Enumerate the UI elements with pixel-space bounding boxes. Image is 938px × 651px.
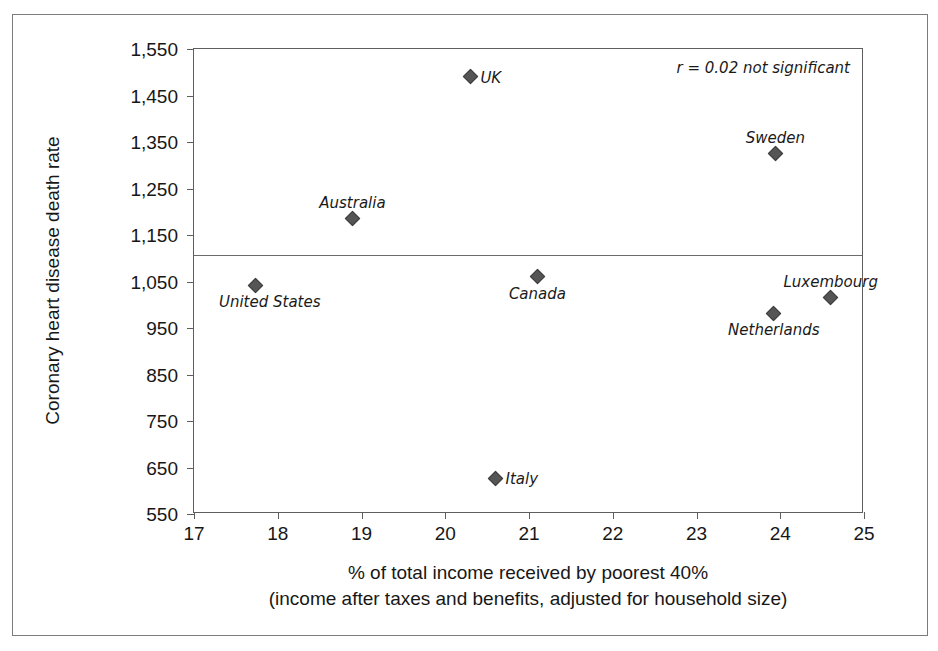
data-point-marker[interactable] (248, 277, 264, 293)
x-tick-label: 22 (602, 523, 623, 545)
y-axis-title: Coronary heart disease death rate (41, 48, 65, 513)
y-tick: 1,450 (187, 96, 194, 97)
data-point-marker[interactable] (767, 146, 783, 162)
x-tick (278, 512, 279, 519)
x-tick-label: 24 (770, 523, 791, 545)
y-tick: 550 (187, 514, 194, 515)
y-tick-label: 1,050 (130, 272, 178, 294)
reference-line (194, 255, 862, 256)
y-tick: 1,250 (187, 189, 194, 190)
data-point-marker[interactable] (766, 305, 782, 321)
x-tick-label: 17 (183, 523, 204, 545)
figure-frame: Coronary heart disease death rate r = 0.… (12, 14, 928, 636)
data-point-label: Netherlands (728, 321, 819, 339)
x-tick-label: 21 (518, 523, 539, 545)
y-tick: 1,050 (187, 282, 194, 283)
x-tick (362, 512, 363, 519)
correlation-annotation: r = 0.02 not significant (677, 59, 850, 77)
y-tick-label: 1,450 (130, 86, 178, 108)
y-tick: 750 (187, 421, 194, 422)
data-point-marker[interactable] (823, 290, 839, 306)
data-point-marker[interactable] (345, 211, 361, 227)
x-tick (529, 512, 530, 519)
data-point-label: Canada (509, 285, 566, 303)
y-tick: 1,550 (187, 49, 194, 50)
x-tick-label: 25 (853, 523, 874, 545)
y-tick: 850 (187, 375, 194, 376)
y-tick-label: 850 (146, 365, 178, 387)
data-point-label: UK (480, 69, 501, 87)
y-tick-label: 550 (146, 504, 178, 526)
y-tick-label: 1,550 (130, 39, 178, 61)
y-tick-label: 1,350 (130, 132, 178, 154)
data-point-label: Luxembourg (784, 273, 878, 291)
y-tick-label: 1,150 (130, 225, 178, 247)
y-tick-label: 750 (146, 411, 178, 433)
x-tick (194, 512, 195, 519)
y-tick: 950 (187, 328, 194, 329)
data-point-label: Australia (319, 194, 385, 212)
x-tick (613, 512, 614, 519)
data-point-marker[interactable] (488, 470, 504, 486)
x-tick-label: 19 (351, 523, 372, 545)
data-point-marker[interactable] (463, 69, 479, 85)
y-tick: 1,350 (187, 142, 194, 143)
plot-area: r = 0.02 not significant 1,5501,4501,350… (193, 48, 863, 513)
x-axis-title: % of total income received by poorest 40… (193, 560, 863, 611)
x-tick-label: 18 (267, 523, 288, 545)
data-point-marker[interactable] (530, 269, 546, 285)
data-point-label: Italy (506, 470, 539, 488)
y-tick: 650 (187, 468, 194, 469)
y-tick-label: 1,250 (130, 179, 178, 201)
x-tick (780, 512, 781, 519)
x-axis-title-line1: % of total income received by poorest 40… (193, 560, 863, 586)
x-axis-title-line2: (income after taxes and benefits, adjust… (193, 586, 863, 612)
y-tick-label: 650 (146, 458, 178, 480)
data-point-label: Sweden (746, 129, 805, 147)
y-tick-label: 950 (146, 318, 178, 340)
x-tick (697, 512, 698, 519)
x-tick-label: 23 (686, 523, 707, 545)
x-tick (864, 512, 865, 519)
y-tick: 1,150 (187, 235, 194, 236)
x-tick (445, 512, 446, 519)
data-point-label: United States (219, 293, 321, 311)
x-tick-label: 20 (435, 523, 456, 545)
